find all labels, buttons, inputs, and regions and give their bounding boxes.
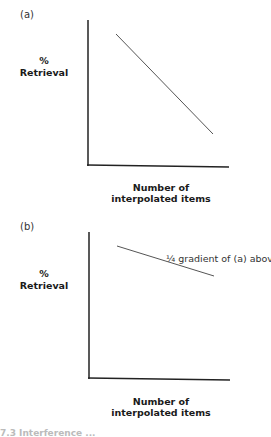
panel-b-annotation: ¼ gradient of (a) above bbox=[166, 253, 271, 264]
panel-b-xlabel-line2: interpolated items bbox=[111, 407, 211, 418]
panel-a-x-axis bbox=[87, 165, 229, 167]
panel-b-label: (b) bbox=[20, 221, 34, 232]
panel-a-ylabel: Retrieval bbox=[20, 67, 69, 78]
panel-a-data-line bbox=[116, 34, 213, 134]
panel-a-ylabel-percent: % bbox=[39, 55, 49, 66]
panel-b-ylabel-percent: % bbox=[39, 268, 49, 279]
panel-b: (b) ¼ gradient of (a) above % Retrieval … bbox=[20, 221, 271, 418]
panel-b-x-axis bbox=[88, 378, 230, 380]
panel-b-xlabel-line1: Number of bbox=[133, 396, 190, 407]
figure-caption: 7.3 Interference ... bbox=[0, 428, 95, 437]
panel-a-xlabel-line1: Number of bbox=[133, 182, 190, 193]
panel-a: (a) % Retrieval Number of interpolated i… bbox=[20, 9, 229, 204]
panel-b-ylabel: Retrieval bbox=[20, 280, 69, 291]
panel-a-label: (a) bbox=[20, 9, 34, 20]
panel-a-xlabel-line2: interpolated items bbox=[111, 193, 211, 204]
figure: (a) % Retrieval Number of interpolated i… bbox=[0, 0, 271, 437]
